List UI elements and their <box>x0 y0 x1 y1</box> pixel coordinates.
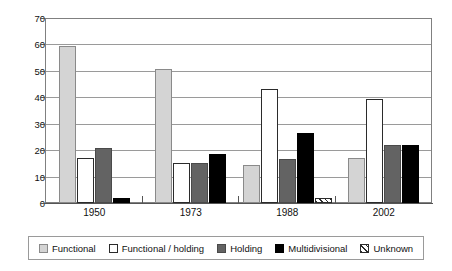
bar-holding-1973 <box>191 163 208 203</box>
y-tick-label-30: 30 <box>5 120 45 129</box>
bar-functional-1988 <box>243 165 260 203</box>
swatch-functional-icon <box>39 244 48 253</box>
bar-holding-1950 <box>95 148 112 204</box>
bar-groups <box>46 19 432 203</box>
legend-item-unknown[interactable]: Unknown <box>360 243 413 254</box>
legend-label: Holding <box>230 243 262 254</box>
bar-multidivisional-1973 <box>209 154 226 203</box>
bar-functional-holding-2002 <box>366 99 383 203</box>
x-axis-line <box>45 203 433 204</box>
x-tick-label-1973: 1973 <box>143 207 240 218</box>
bar-functional-holding-1950 <box>77 158 94 203</box>
bar-group-1950 <box>46 19 143 203</box>
y-tick-label-20: 20 <box>5 146 45 155</box>
bar-group-1973 <box>143 19 240 203</box>
bar-functional-1973 <box>155 69 172 203</box>
swatch-unknown-icon <box>360 244 369 253</box>
y-tick-label-0: 0 <box>5 199 45 208</box>
legend-item-functional[interactable]: Functional <box>39 243 96 254</box>
legend-label: Functional / holding <box>122 243 204 254</box>
chart-legend: FunctionalFunctional / holdingHoldingMul… <box>28 236 424 260</box>
legend-item-multidivisional[interactable]: Multidivisional <box>275 243 347 254</box>
bar-multidivisional-1988 <box>297 133 314 203</box>
y-tick-label-70: 70 <box>5 14 45 23</box>
bar-group-2002 <box>336 19 433 203</box>
legend-label: Functional <box>52 243 96 254</box>
x-tick-label-1988: 1988 <box>239 207 336 218</box>
legend-label: Multidivisional <box>288 243 347 254</box>
y-axis: 010203040506070 <box>0 0 45 271</box>
swatch-multidivisional-icon <box>275 244 284 253</box>
swatch-holding-icon <box>217 244 226 253</box>
bar-holding-1988 <box>279 159 296 203</box>
bar-holding-2002 <box>384 145 401 203</box>
bar-functional-2002 <box>348 158 365 203</box>
bar-group-1988 <box>239 19 336 203</box>
bar-functional-holding-1988 <box>261 89 278 203</box>
y-tick-label-10: 10 <box>5 173 45 182</box>
chart-container: 010203040506070 1950197319882002 Functio… <box>0 0 452 271</box>
bar-multidivisional-2002 <box>402 145 419 203</box>
swatch-functional-holding-icon <box>109 244 118 253</box>
legend-label: Unknown <box>373 243 413 254</box>
x-tick-label-1950: 1950 <box>46 207 143 218</box>
legend-item-holding[interactable]: Holding <box>217 243 262 254</box>
bar-functional-holding-1973 <box>173 163 190 203</box>
x-axis-tick-labels: 1950197319882002 <box>46 207 432 218</box>
y-tick-label-40: 40 <box>5 93 45 102</box>
bar-functional-1950 <box>59 46 76 203</box>
y-tick-label-60: 60 <box>5 40 45 49</box>
y-tick-label-50: 50 <box>5 67 45 76</box>
legend-item-functional-holding[interactable]: Functional / holding <box>109 243 204 254</box>
x-tick-label-2002: 2002 <box>336 207 433 218</box>
